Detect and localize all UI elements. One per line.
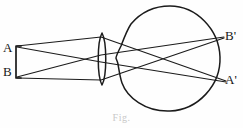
optics-ray-diagram: A B B' A' Fig. bbox=[0, 0, 243, 128]
eyeball-outline bbox=[116, 6, 220, 111]
object-AB bbox=[16, 46, 21, 78]
label-image-bottom: A' bbox=[225, 73, 237, 86]
figure-caption: Fig. bbox=[0, 112, 243, 123]
light-rays-from-A bbox=[17, 37, 226, 82]
label-image-top: B' bbox=[225, 29, 236, 42]
diagram-canvas bbox=[0, 0, 243, 128]
converging-lens bbox=[98, 33, 106, 85]
label-object-top: A bbox=[3, 41, 12, 54]
label-object-bottom: B bbox=[3, 65, 12, 78]
